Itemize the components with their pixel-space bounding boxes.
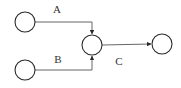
- edge-c: [102, 44, 151, 45]
- node-junction: [82, 35, 102, 55]
- edge-a: [35, 22, 92, 34]
- node-target: [152, 34, 172, 54]
- flow-diagram: A B C: [0, 0, 181, 88]
- edge-label-a: A: [53, 3, 61, 15]
- node-source-a: [15, 12, 35, 32]
- edge-labels: A B C: [53, 3, 123, 67]
- node-source-b: [15, 60, 35, 80]
- edge-label-c: C: [115, 55, 122, 67]
- edge-b: [35, 56, 92, 70]
- edge-label-b: B: [54, 53, 61, 65]
